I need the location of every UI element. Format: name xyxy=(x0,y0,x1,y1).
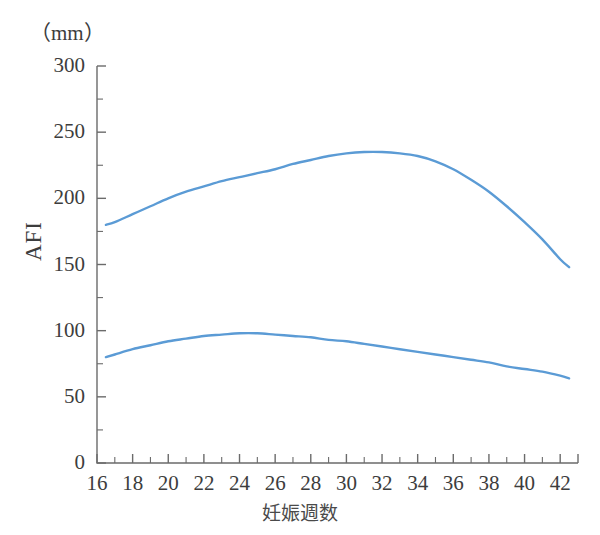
afi-gestational-week-chart: （mm） AFI 妊娠週数 050100150200250300 1618202… xyxy=(0,0,600,535)
y-tick-label: 300 xyxy=(15,55,85,76)
x-tick-label: 36 xyxy=(433,473,473,494)
afi-upper-curve xyxy=(106,152,569,267)
x-tick-label: 16 xyxy=(77,473,117,494)
axis-spines xyxy=(97,66,578,463)
x-tick-label: 26 xyxy=(255,473,295,494)
x-tick-label: 18 xyxy=(113,473,153,494)
y-tick-label: 50 xyxy=(15,386,85,407)
y-tick-label: 200 xyxy=(15,187,85,208)
y-tick-label: 100 xyxy=(15,320,85,341)
y-tick-label: 0 xyxy=(15,452,85,473)
x-tick-label: 34 xyxy=(398,473,438,494)
y-tick-label: 250 xyxy=(15,121,85,142)
plot-area xyxy=(0,0,600,535)
y-tick-label: 150 xyxy=(15,254,85,275)
afi-lower-curve xyxy=(106,333,569,378)
x-tick-label: 22 xyxy=(184,473,224,494)
x-tick-label: 42 xyxy=(540,473,580,494)
x-tick-label: 38 xyxy=(469,473,509,494)
x-tick-label: 24 xyxy=(220,473,260,494)
x-tick-label: 28 xyxy=(291,473,331,494)
x-tick-label: 32 xyxy=(362,473,402,494)
x-tick-label: 30 xyxy=(326,473,366,494)
x-tick-label: 40 xyxy=(505,473,545,494)
x-tick-label: 20 xyxy=(148,473,188,494)
